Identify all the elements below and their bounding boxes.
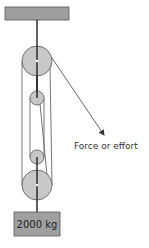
top-axle-icon bbox=[36, 60, 38, 62]
load-label: 2000 kg bbox=[17, 219, 58, 230]
effort-rope-arrow bbox=[52, 58, 104, 135]
ceiling-beam bbox=[5, 7, 69, 20]
rope-outer-right bbox=[50, 68, 52, 185]
rope-cross bbox=[40, 104, 47, 175]
effort-label: Force or effort bbox=[74, 141, 138, 151]
pulley-diagram: 2000 kg Force or effort bbox=[0, 0, 149, 248]
bottom-axle-icon bbox=[36, 184, 38, 186]
